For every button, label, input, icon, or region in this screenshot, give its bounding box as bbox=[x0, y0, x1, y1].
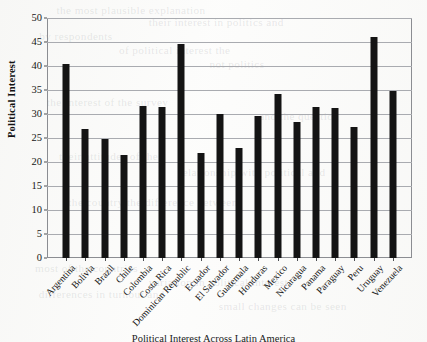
bar bbox=[370, 37, 377, 258]
x-tick-mark bbox=[278, 258, 279, 261]
scanned-page-background: the most plausible explanationtheir inte… bbox=[0, 0, 427, 342]
x-tick-mark bbox=[162, 258, 163, 261]
bar bbox=[216, 114, 223, 258]
bar bbox=[255, 116, 262, 258]
x-tick-mark bbox=[258, 258, 259, 261]
x-tick-mark bbox=[393, 258, 394, 261]
y-tick-mark bbox=[44, 42, 47, 43]
x-tick-mark bbox=[220, 258, 221, 261]
y-axis-title: Political Interest bbox=[6, 60, 17, 138]
x-tick-mark bbox=[85, 258, 86, 261]
x-tick-mark bbox=[143, 258, 144, 261]
bleed-through-line: small changes can be seen bbox=[219, 300, 347, 312]
y-tick-label: 45 bbox=[32, 37, 43, 48]
gridline bbox=[47, 90, 412, 91]
bar bbox=[389, 91, 396, 258]
y-tick-mark bbox=[44, 138, 47, 139]
bar bbox=[332, 108, 339, 258]
y-tick-mark bbox=[44, 90, 47, 91]
x-tick-mark bbox=[316, 258, 317, 261]
bar bbox=[178, 44, 185, 258]
x-tick-mark bbox=[201, 258, 202, 261]
y-tick-label: 40 bbox=[32, 61, 43, 72]
y-tick-label: 50 bbox=[32, 13, 43, 24]
x-tick-mark bbox=[354, 258, 355, 261]
y-tick-label: 10 bbox=[32, 205, 43, 216]
y-tick-mark bbox=[44, 258, 47, 259]
bar bbox=[101, 139, 108, 258]
bar bbox=[351, 127, 358, 258]
gridline bbox=[47, 42, 412, 43]
y-tick-label: 0 bbox=[37, 253, 42, 264]
gridline bbox=[47, 114, 412, 115]
bar bbox=[293, 122, 300, 258]
y-tick-mark bbox=[44, 18, 47, 19]
y-tick-label: 20 bbox=[32, 157, 43, 168]
x-tick-mark bbox=[297, 258, 298, 261]
bar bbox=[236, 148, 243, 258]
bar bbox=[312, 107, 319, 258]
gridline bbox=[47, 66, 412, 67]
bar bbox=[140, 106, 147, 258]
bar bbox=[120, 155, 127, 258]
bar bbox=[197, 153, 204, 258]
y-tick-mark bbox=[44, 66, 47, 67]
y-tick-label: 15 bbox=[32, 181, 43, 192]
y-tick-mark bbox=[44, 162, 47, 163]
y-tick-label: 25 bbox=[32, 133, 43, 144]
x-tick-mark bbox=[124, 258, 125, 261]
x-tick-mark bbox=[105, 258, 106, 261]
x-tick-label: Brazil bbox=[93, 263, 116, 287]
chart-caption: Political Interest Across Latin America bbox=[0, 333, 427, 342]
x-tick-mark bbox=[181, 258, 182, 261]
y-tick-label: 5 bbox=[37, 229, 42, 240]
x-tick-mark bbox=[374, 258, 375, 261]
bar bbox=[274, 94, 281, 258]
y-tick-mark bbox=[44, 186, 47, 187]
y-tick-mark bbox=[44, 114, 47, 115]
y-tick-mark bbox=[44, 210, 47, 211]
bar-chart: 05101520253035404550 ArgentinaBoliviaBra… bbox=[47, 18, 412, 258]
x-tick-mark bbox=[335, 258, 336, 261]
x-tick-mark bbox=[66, 258, 67, 261]
bar bbox=[82, 129, 89, 258]
bar bbox=[159, 107, 166, 258]
bleed-through-line: the most plausible explanation bbox=[57, 4, 206, 16]
gridline bbox=[47, 18, 412, 19]
x-tick-mark bbox=[239, 258, 240, 261]
y-tick-mark bbox=[44, 234, 47, 235]
bar bbox=[63, 64, 70, 258]
y-tick-label: 30 bbox=[32, 109, 43, 120]
y-tick-label: 35 bbox=[32, 85, 43, 96]
